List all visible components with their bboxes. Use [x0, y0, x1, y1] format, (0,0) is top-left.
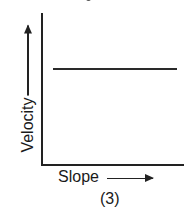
y-axis-label-container: Velocity — [8, 24, 48, 154]
constant-velocity-line — [53, 68, 177, 70]
x-axis — [41, 164, 184, 166]
y-axis-label: Velocity — [19, 25, 37, 152]
figure-number: (3) — [100, 190, 120, 208]
y-axis-label-text: Velocity — [19, 97, 37, 152]
arrow-up-icon — [27, 25, 29, 95]
cropped-text-fragment — [86, 0, 91, 1]
x-axis-label-text: Slope — [58, 168, 99, 186]
x-axis-label: Slope — [58, 168, 153, 186]
arrow-right-icon — [107, 178, 153, 180]
